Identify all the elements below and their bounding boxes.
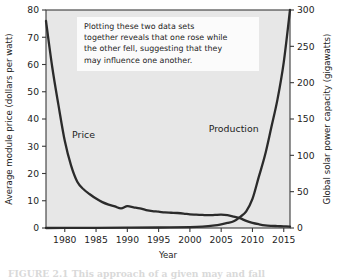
y-left-tick-label: 30 <box>27 141 39 152</box>
figure-container: 01020304050607080 050100150200250300 198… <box>0 0 341 279</box>
price-series-label: Price <box>72 129 95 140</box>
y-left-tick-label: 40 <box>27 113 39 124</box>
y-right-tick-label: 0 <box>297 222 303 233</box>
dual-axis-line-chart: 01020304050607080 050100150200250300 198… <box>0 0 341 279</box>
y-right-tick-label: 200 <box>297 77 315 88</box>
production-series-label: Production <box>209 123 259 134</box>
y-left-tick-label: 80 <box>27 4 39 15</box>
y-right-tick-label: 150 <box>297 113 315 124</box>
x-tick-label: 1990 <box>116 234 140 245</box>
y-right-tick-label: 300 <box>297 4 315 15</box>
y-right-tick-label: 250 <box>297 41 315 52</box>
x-tick-label: 2005 <box>209 234 233 245</box>
annotation-line: the other fell, suggesting that they <box>84 44 222 53</box>
x-tick-label: 2010 <box>241 234 265 245</box>
y-left-tick-label: 60 <box>27 59 39 70</box>
y-left-tick-label: 50 <box>27 86 39 97</box>
x-tick-label: 1980 <box>53 234 77 245</box>
x-tick-label: 2000 <box>178 234 202 245</box>
y-right-tick-label: 100 <box>297 150 315 161</box>
figure-caption: FIGURE 2.1 This approach of a given may … <box>8 268 266 279</box>
x-tick-label: 2015 <box>272 234 296 245</box>
y-axis-right-title: Global solar power capacity (gigawatts) <box>322 34 332 205</box>
y-left-tick-label: 70 <box>27 32 39 43</box>
y-axis-left-title: Average module price (dollars per watt) <box>4 33 14 204</box>
annotation-line: may influence one another. <box>84 56 192 65</box>
x-axis-title: Year <box>158 250 178 260</box>
y-left-tick-label: 0 <box>33 222 39 233</box>
x-tick-label: 1985 <box>84 234 108 245</box>
y-right-tick-label: 50 <box>297 186 309 197</box>
y-left-tick-label: 10 <box>27 195 39 206</box>
x-tick-label: 1995 <box>147 234 171 245</box>
y-left-tick-label: 20 <box>27 168 39 179</box>
annotation-line: together reveals that one rose while <box>84 33 228 42</box>
annotation-line: Plotting these two data sets <box>84 22 194 31</box>
